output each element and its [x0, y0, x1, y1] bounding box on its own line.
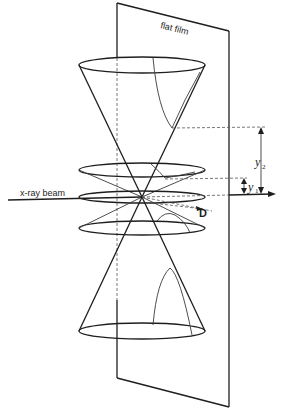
inner-cone-upper-right: [142, 170, 205, 197]
y2-subscript: 2: [262, 163, 266, 171]
beam-arrow-icon: [268, 191, 276, 197]
film-label: flat film: [160, 20, 190, 37]
outer-cone-lower-right: [142, 197, 205, 331]
y1-extension-line: [165, 178, 247, 179]
y1-arrow-down-icon: [241, 188, 247, 194]
y2-arrow-up-icon: [258, 127, 264, 134]
flat-film-plane: [117, 3, 229, 407]
inner-cone-upper-rim: [79, 163, 205, 177]
diffraction-diagram: flat film x-ray beam: [0, 0, 284, 417]
y1-arrow-up-icon: [241, 178, 247, 184]
outer-cone-upper-rim: [79, 57, 205, 73]
y2-symbol: y: [254, 155, 261, 169]
y2-extension-line: [172, 127, 265, 128]
outer-cone-lower-left: [79, 197, 142, 331]
inner-cone-upper-left: [79, 170, 142, 197]
beam-exit: [229, 194, 272, 195]
y1-subscript: 1: [255, 187, 259, 195]
beam-transmitted-hidden: [142, 195, 229, 197]
outer-hyperbola-upper: [153, 58, 200, 128]
outer-cone-upper: [79, 57, 205, 197]
film-bottom-edge: [117, 378, 229, 407]
outer-cone-lower-rim: [79, 323, 205, 339]
y1-symbol: y: [247, 180, 254, 194]
distance-d-label: D: [199, 207, 207, 219]
inner-cone-upper: [79, 163, 205, 197]
beam-label: x-ray beam: [20, 188, 65, 198]
inner-cone-lower-rim: [79, 221, 205, 235]
y2-arrow-down-icon: [258, 187, 264, 194]
